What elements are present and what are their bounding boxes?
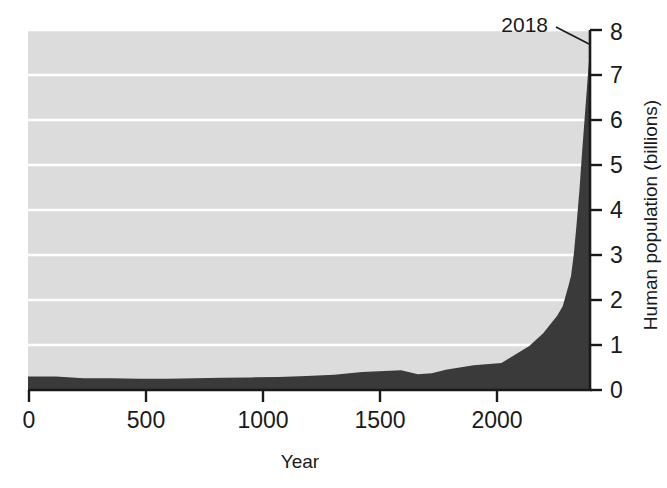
y-tick-label-4: 4 xyxy=(610,197,623,223)
y-tick-label-1: 1 xyxy=(610,332,623,358)
y-tick-label-2: 2 xyxy=(610,287,623,313)
population-growth-chart: HOW CROWDED IS OUR xyxy=(0,0,667,488)
x-tick-label-2000: 2000 xyxy=(471,407,522,433)
x-tick-label-1000: 1000 xyxy=(237,407,288,433)
y-tick-label-7: 7 xyxy=(610,62,623,88)
x-tick-label-0: 0 xyxy=(23,407,36,433)
y-tick-label-8: 8 xyxy=(610,19,623,45)
chart-svg: HOW CROWDED IS OUR xyxy=(0,0,667,488)
y-tick-label-5: 5 xyxy=(610,152,623,178)
y-tick-label-3: 3 xyxy=(610,242,623,268)
x-tick-label-500: 500 xyxy=(127,407,165,433)
y-axis-title: Human population (billions) xyxy=(640,100,661,330)
y-tick-label-6: 6 xyxy=(610,107,623,133)
y-axis-tick-labels: 0 1 2 3 4 5 6 7 8 xyxy=(610,19,623,403)
x-axis-title: Year xyxy=(281,451,320,472)
y-tick-label-0: 0 xyxy=(610,377,623,403)
x-tick-label-1500: 1500 xyxy=(354,407,405,433)
plot-area xyxy=(28,30,590,390)
annotation-label-2018: 2018 xyxy=(501,13,548,36)
